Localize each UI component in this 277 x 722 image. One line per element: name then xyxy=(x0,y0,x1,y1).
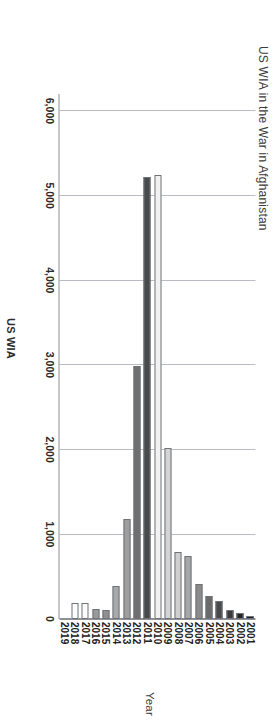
bar-row xyxy=(164,94,171,619)
bar-2015[interactable] xyxy=(102,610,109,619)
bar-row xyxy=(174,94,181,619)
category-label-2017: 2017 xyxy=(79,622,90,644)
bar-row xyxy=(123,94,130,619)
category-label-2004: 2004 xyxy=(213,622,224,644)
tick-label-4000: 4,000 xyxy=(43,267,55,293)
bar-2010[interactable] xyxy=(154,175,161,619)
bar-row xyxy=(71,94,78,619)
category-label-2015: 2015 xyxy=(100,622,111,644)
bar-row xyxy=(236,94,243,619)
bar-2011[interactable] xyxy=(143,177,150,619)
bar-2004[interactable] xyxy=(215,601,222,619)
bar-row xyxy=(143,94,150,619)
category-label-2009: 2009 xyxy=(162,622,173,644)
bar-row xyxy=(184,94,191,619)
category-axis-line xyxy=(58,94,59,619)
chart-title: US WIA in the War in Afghanistan xyxy=(255,46,269,231)
bar-2018[interactable] xyxy=(71,603,78,619)
bar-row xyxy=(195,94,202,619)
bar-2017[interactable] xyxy=(81,603,88,619)
bar-2006[interactable] xyxy=(195,584,202,619)
bar-2007[interactable] xyxy=(184,556,191,619)
category-label-2012: 2012 xyxy=(131,622,142,644)
value-axis-tick-labels: 6,0005,0004,0003,0002,0001,0000 xyxy=(39,94,55,619)
category-label-2001: 2001 xyxy=(244,622,255,644)
bar-2012[interactable] xyxy=(133,366,140,619)
bar-2013[interactable] xyxy=(123,519,130,619)
bar-row xyxy=(246,94,253,619)
bar-2005[interactable] xyxy=(205,596,212,619)
category-axis-labels: 2001200220032004200520062007200820092010… xyxy=(59,620,255,678)
bar-row xyxy=(154,94,161,619)
bar-2009[interactable] xyxy=(164,448,171,619)
category-label-2018: 2018 xyxy=(69,622,80,644)
tick-label-0: 0 xyxy=(43,616,55,622)
category-label-2003: 2003 xyxy=(224,622,235,644)
tick-label-1000: 1,000 xyxy=(43,521,55,547)
tick-label-2000: 2,000 xyxy=(43,437,55,463)
bar-2002[interactable] xyxy=(236,613,243,619)
bar-row xyxy=(92,94,99,619)
category-label-2005: 2005 xyxy=(203,622,214,644)
bar-2001[interactable] xyxy=(246,616,253,619)
category-label-2006: 2006 xyxy=(193,622,204,644)
bar-row xyxy=(81,94,88,619)
tick-label-3000: 3,000 xyxy=(43,352,55,378)
tick-label-5000: 5,000 xyxy=(43,182,55,208)
category-label-2010: 2010 xyxy=(152,622,163,644)
rotated-chart-wrapper: US WIA in the War in Afghanistan 6,0005,… xyxy=(0,0,277,722)
category-label-2013: 2013 xyxy=(121,622,132,644)
bar-row xyxy=(61,94,68,619)
category-label-2019: 2019 xyxy=(59,622,70,644)
bar-row xyxy=(226,94,233,619)
value-axis-title: US WIA xyxy=(4,318,16,359)
bar-row xyxy=(205,94,212,619)
bar-2016[interactable] xyxy=(92,609,99,619)
bar-row xyxy=(102,94,109,619)
bar-2003[interactable] xyxy=(226,610,233,619)
bar-2014[interactable] xyxy=(112,586,119,619)
chart-canvas: US WIA in the War in Afghanistan 6,0005,… xyxy=(0,0,277,722)
category-label-2002: 2002 xyxy=(234,622,245,644)
tick-label-6000: 6,000 xyxy=(43,98,55,124)
bar-row xyxy=(112,94,119,619)
category-label-2011: 2011 xyxy=(141,622,152,644)
category-label-2008: 2008 xyxy=(172,622,183,644)
category-label-2016: 2016 xyxy=(90,622,101,644)
plot-area xyxy=(59,94,255,619)
bar-2008[interactable] xyxy=(174,552,181,619)
category-axis-title: Year xyxy=(143,692,155,716)
bar-row xyxy=(215,94,222,619)
category-label-2007: 2007 xyxy=(182,622,193,644)
category-label-2014: 2014 xyxy=(110,622,121,644)
bar-row xyxy=(133,94,140,619)
